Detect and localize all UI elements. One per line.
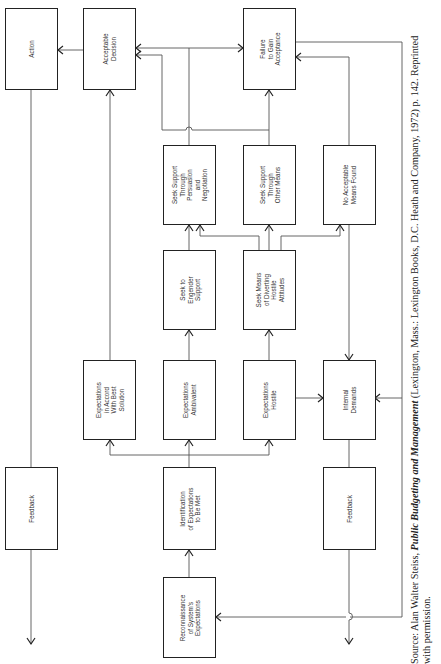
box-feedback-left: Feedback	[5, 467, 58, 550]
box-feedback-left-label: Feedback	[28, 495, 36, 523]
box-identification-label: Identification of Expectations to Be Met	[178, 487, 201, 530]
box-seek-support-other-label: Seek Support Through Other Means	[258, 166, 281, 204]
box-expectations-accord: Expectations in Accord With Best Solutio…	[83, 360, 136, 440]
source-line-2: with permission.	[421, 0, 433, 664]
connector-lines	[0, 0, 441, 664]
box-seek-means-diverting: Seek Means of Diverting Hostile Attitude…	[243, 250, 296, 330]
box-identification-expectations: Identification of Expectations to Be Met	[163, 467, 216, 550]
box-seek-engender-label: Seek to Engender Support	[178, 276, 201, 303]
box-reconnaissance: Reconnaissance of System's Expectations	[163, 577, 216, 658]
box-action-label: Action	[28, 40, 36, 58]
box-seek-support-persuasion-label: Seek Support Through Persuasion and Nego…	[171, 166, 209, 204]
box-expectations-hostile: Expectations Hostile	[243, 360, 296, 440]
box-expectations-hostile-label: Expectations Hostile	[262, 382, 277, 418]
box-failure-label: Failure to Gain Acceptance	[258, 33, 281, 66]
box-seek-support-other-means: Seek Support Through Other Means	[243, 145, 296, 225]
source-line-1: Source: Alan Walter Steiss, Public Budge…	[409, 0, 421, 664]
box-acceptable-decision: Acceptable Decision	[83, 8, 136, 90]
box-seek-means-diverting-label: Seek Means of Diverting Hostile Attitude…	[254, 272, 284, 307]
box-internal-demands: Internal Demands	[323, 360, 376, 440]
box-internal-demands-label: Internal Demands	[342, 387, 357, 414]
box-acceptable-decision-label: Acceptable Decision	[102, 33, 117, 64]
box-expectations-accord-label: Expectations in Accord With Best Solutio…	[94, 382, 124, 418]
box-expectations-ambivalent-label: Expectations Ambivalent	[182, 382, 197, 418]
box-no-acceptable-means: No Acceptable Means Found	[323, 145, 376, 225]
flowchart-diagram: Action Acceptable Decision Failure to Ga…	[0, 0, 441, 664]
source-suffix: (Lexington, Mass.: Lexington Books, D.C.…	[409, 36, 420, 401]
box-reconnaissance-label: Reconnaissance of System's Expectations	[178, 594, 201, 641]
box-feedback-right: Feedback	[323, 467, 376, 550]
box-feedback-right-label: Feedback	[346, 495, 354, 523]
box-seek-to-engender-support: Seek to Engender Support	[163, 250, 216, 330]
box-seek-support-persuasion: Seek Support Through Persuasion and Nego…	[163, 145, 216, 225]
source-citation: Source: Alan Walter Steiss, Public Budge…	[409, 0, 432, 664]
source-title: Public Budgeting and Management	[409, 401, 420, 551]
box-failure-to-gain-acceptance: Failure to Gain Acceptance	[243, 8, 296, 90]
box-no-acceptable-means-label: No Acceptable Means Found	[342, 165, 357, 206]
box-expectations-ambivalent: Expectations Ambivalent	[163, 360, 216, 440]
box-action: Action	[5, 8, 58, 90]
source-prefix: Source: Alan Walter Steiss,	[409, 550, 420, 664]
